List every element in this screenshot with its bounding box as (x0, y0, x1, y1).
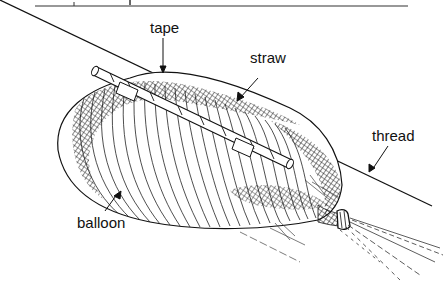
label-balloon: balloon (77, 215, 125, 230)
air-jet (340, 218, 443, 280)
balloon-rocket-diagram: tape straw thread balloon (0, 0, 443, 293)
balloon-body (58, 72, 342, 229)
label-thread: thread (372, 128, 415, 143)
label-straw: straw (250, 50, 286, 65)
diagram-illustration (0, 0, 443, 293)
label-tape: tape (150, 20, 179, 35)
caption-rule (35, 0, 408, 6)
